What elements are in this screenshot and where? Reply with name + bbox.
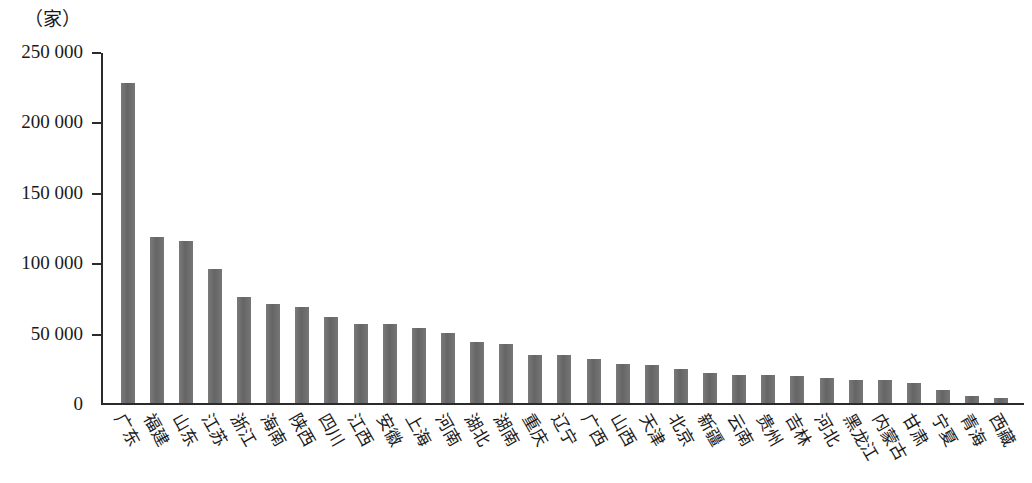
x-axis-category-label: 江西 [344, 411, 376, 449]
bar-slot [754, 53, 783, 403]
x-axis-label-slot: 北京 [668, 409, 697, 483]
x-axis-label-slot: 吉林 [784, 409, 813, 483]
x-axis-category-label: 云南 [724, 411, 756, 449]
y-axis-tick-mark [92, 193, 101, 195]
bar-slot [579, 53, 608, 403]
x-axis-category-label: 湖南 [490, 411, 522, 449]
x-axis-label-slot: 山西 [609, 409, 638, 483]
bar-slot [346, 53, 375, 403]
x-axis-category-label: 重庆 [519, 411, 551, 449]
bar [383, 324, 397, 403]
bar-slot [666, 53, 695, 403]
x-axis-label-slot: 浙江 [230, 409, 259, 483]
x-axis-category-label: 青海 [957, 411, 989, 449]
x-axis-category-label: 北京 [665, 411, 697, 449]
x-axis-category-label: 宁夏 [928, 411, 960, 449]
x-axis-label-slot: 湖南 [492, 409, 521, 483]
x-axis-category-label: 上海 [403, 411, 435, 449]
bar-slot [783, 53, 812, 403]
x-axis-category-label: 广西 [578, 411, 610, 449]
x-axis-label-slot: 重庆 [522, 409, 551, 483]
bar [557, 355, 571, 403]
x-axis-category-label: 河南 [432, 411, 464, 449]
bar [528, 355, 542, 403]
bar [761, 375, 775, 403]
x-axis-label-slot: 广西 [580, 409, 609, 483]
bar-slot [987, 53, 1016, 403]
x-axis-label-slot: 贵州 [755, 409, 784, 483]
y-axis-tick-mark [92, 334, 101, 336]
x-axis-category-label: 吉林 [782, 411, 814, 449]
bar-slot [899, 53, 928, 403]
bar [412, 328, 426, 403]
bar [616, 364, 630, 403]
x-axis-category-label: 天津 [636, 411, 668, 449]
bar [878, 380, 892, 403]
bar-slot [375, 53, 404, 403]
x-axis-category-label: 安徽 [374, 411, 406, 449]
bar-slot [288, 53, 317, 403]
bar [965, 396, 979, 403]
bar [703, 373, 717, 403]
bar-slot [870, 53, 899, 403]
x-axis-category-label: 河北 [811, 411, 843, 449]
bar-slot [696, 53, 725, 403]
bar-slot [113, 53, 142, 403]
x-axis-label-slot: 福建 [142, 409, 171, 483]
bar-slot [841, 53, 870, 403]
bar-slot [171, 53, 200, 403]
bar [820, 378, 834, 403]
x-axis-label-slot: 内蒙古 [872, 409, 901, 483]
bar [994, 398, 1008, 403]
bar [179, 241, 193, 403]
bar [470, 342, 484, 403]
y-axis-tick-mark [92, 52, 101, 54]
bar-series [103, 53, 1024, 403]
x-axis-label-slot: 天津 [638, 409, 667, 483]
x-axis-category-label: 甘肃 [899, 411, 931, 449]
x-axis-label-slot: 宁夏 [930, 409, 959, 483]
x-axis-label-slot: 江苏 [201, 409, 230, 483]
plot-area: 050 000100 000150 000200 000250 000 [101, 53, 1024, 405]
bar-slot [142, 53, 171, 403]
x-axis-category-label: 湖北 [461, 411, 493, 449]
bar [208, 269, 222, 403]
bar-slot [463, 53, 492, 403]
x-axis-label-slot: 青海 [959, 409, 988, 483]
x-axis-category-label: 山东 [169, 411, 201, 449]
x-axis-label-slot: 云南 [726, 409, 755, 483]
x-axis-category-label: 江苏 [198, 411, 230, 449]
bar [441, 333, 455, 403]
x-axis-category-label: 西藏 [986, 411, 1018, 449]
x-axis-label-slot: 西藏 [989, 409, 1018, 483]
x-axis-label-slot: 河南 [434, 409, 463, 483]
bar [936, 390, 950, 403]
bar [150, 237, 164, 403]
bar-slot [958, 53, 987, 403]
bar [732, 375, 746, 403]
bar-slot [812, 53, 841, 403]
x-axis-label-slot: 河北 [814, 409, 843, 483]
x-axis-category-label: 福建 [140, 411, 172, 449]
y-axis-tick-label: 0 [74, 393, 84, 415]
x-axis-category-label: 四川 [315, 411, 347, 449]
x-axis-category-label: 海南 [257, 411, 289, 449]
bar-slot [404, 53, 433, 403]
x-axis-category-label: 新疆 [695, 411, 727, 449]
y-axis-tick-mark [92, 122, 101, 124]
x-axis-label-slot: 海南 [259, 409, 288, 483]
bar [790, 376, 804, 403]
bar-slot [492, 53, 521, 403]
bar-chart-figure: （家） 050 000100 000150 000200 000250 000 … [0, 0, 1032, 483]
bar-slot [230, 53, 259, 403]
bar [907, 383, 921, 403]
bar-slot [725, 53, 754, 403]
x-axis-label-slot: 四川 [317, 409, 346, 483]
bar [266, 304, 280, 403]
bar [587, 359, 601, 403]
bar-slot [608, 53, 637, 403]
bar [354, 324, 368, 403]
bar-slot [317, 53, 346, 403]
bar-slot [550, 53, 579, 403]
bar [849, 380, 863, 403]
